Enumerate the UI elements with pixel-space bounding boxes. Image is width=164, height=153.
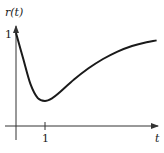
y-axis-label: r(t) (5, 6, 23, 19)
y-tick-label-1: 1 (5, 28, 12, 41)
x-axis-label: t (155, 132, 160, 145)
chart-canvas: r(t) 1 1 t (0, 0, 164, 153)
x-tick-label-1: 1 (42, 132, 49, 145)
r-curve (16, 33, 157, 101)
